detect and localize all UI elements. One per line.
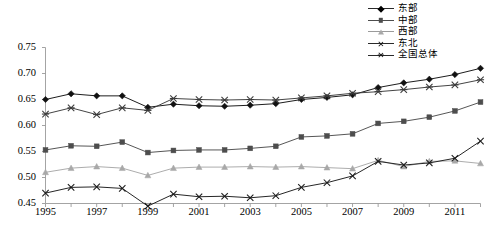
- data-point-square: [273, 144, 278, 149]
- data-point-diamond: [477, 65, 483, 71]
- data-point-star: [477, 77, 484, 83]
- legend-marker-diamond-icon: [379, 7, 384, 12]
- legend-item-label: 全国总体: [398, 50, 438, 60]
- legend-line-swatch: [368, 8, 394, 9]
- legend-marker-triangle-icon: [378, 29, 384, 34]
- x-axis-tick-label: 2011: [435, 207, 475, 218]
- y-axis-tick-label: 0.75: [6, 42, 36, 53]
- data-point-square: [94, 144, 99, 149]
- data-point-diamond: [222, 103, 228, 109]
- data-point-diamond: [170, 101, 176, 107]
- series-line: [46, 80, 481, 115]
- data-point-square: [478, 100, 483, 105]
- y-axis-tick-label: 0.55: [6, 146, 36, 157]
- data-point-diamond: [452, 71, 458, 77]
- legend-item-x[interactable]: 东北: [368, 38, 488, 50]
- data-point-x: [477, 138, 483, 144]
- y-axis-tick-label: 0.50: [6, 172, 36, 183]
- data-point-square: [197, 148, 202, 153]
- x-axis-tick-label: 2001: [179, 207, 219, 218]
- data-point-diamond: [119, 93, 125, 99]
- x-axis-tick-label: 1999: [128, 207, 168, 218]
- chart-figure: 0.450.500.550.600.650.700.75 19951997199…: [0, 0, 491, 237]
- data-point-square: [325, 134, 330, 139]
- data-point-diamond: [196, 103, 202, 109]
- series-square: [43, 100, 483, 155]
- data-point-diamond: [94, 93, 100, 99]
- legend-item-label: 东北: [398, 39, 418, 49]
- legend-line-swatch: [368, 55, 394, 56]
- series-line: [46, 160, 481, 175]
- legend-item-label: 东部: [398, 4, 418, 14]
- legend-marker-square-icon: [379, 18, 383, 22]
- y-axis-tick-label: 0.60: [6, 120, 36, 131]
- legend-item-diamond[interactable]: 东部: [368, 3, 488, 15]
- chart-legend: 东部中部西部东北全国总体: [368, 3, 488, 61]
- data-point-star: [221, 97, 228, 103]
- legend-item-label: 中部: [398, 16, 418, 26]
- data-point-x: [349, 173, 355, 179]
- y-axis-tick-label: 0.65: [6, 94, 36, 105]
- data-point-star: [400, 86, 407, 92]
- x-axis-tick-label: 1995: [26, 207, 66, 218]
- data-point-diamond: [42, 96, 48, 102]
- legend-item-label: 西部: [398, 27, 418, 37]
- data-point-square: [171, 148, 176, 153]
- data-point-star: [195, 96, 202, 102]
- data-point-square: [376, 121, 381, 126]
- legend-item-triangle[interactable]: 西部: [368, 26, 488, 38]
- series-line: [46, 141, 481, 206]
- data-point-square: [222, 148, 227, 153]
- data-point-star: [119, 105, 126, 111]
- data-point-square: [145, 150, 150, 155]
- data-point-star: [451, 82, 458, 88]
- data-point-star: [67, 105, 74, 111]
- data-point-diamond: [401, 80, 407, 86]
- data-point-square: [401, 119, 406, 124]
- legend-line-swatch: [368, 20, 394, 21]
- legend-line-swatch: [368, 31, 394, 32]
- x-axis-tick-label: 1997: [77, 207, 117, 218]
- series-triangle: [43, 157, 484, 178]
- series-line: [46, 102, 481, 152]
- series-star: [42, 77, 484, 118]
- x-axis-tick-label: 2003: [230, 207, 270, 218]
- series-x: [42, 138, 483, 209]
- data-point-square: [350, 131, 355, 136]
- data-point-diamond: [247, 102, 253, 108]
- data-point-square: [69, 143, 74, 148]
- legend-line-swatch: [368, 43, 394, 44]
- legend-item-star[interactable]: 全国总体: [368, 49, 488, 61]
- data-point-square: [427, 115, 432, 120]
- data-point-star: [93, 111, 100, 117]
- y-axis-tick-label: 0.70: [6, 68, 36, 79]
- data-point-square: [453, 109, 458, 114]
- data-point-square: [248, 146, 253, 151]
- data-point-diamond: [426, 76, 432, 82]
- series-line: [46, 68, 481, 107]
- legend-item-square[interactable]: 中部: [368, 15, 488, 27]
- legend-marker-x-icon: [378, 41, 384, 47]
- legend-marker-star-icon: [378, 52, 384, 58]
- data-point-square: [43, 148, 48, 153]
- x-axis-tick-label: 2007: [333, 207, 373, 218]
- data-point-square: [120, 140, 125, 145]
- data-point-triangle: [94, 163, 100, 169]
- x-axis-tick-label: 2005: [281, 207, 321, 218]
- x-axis-tick-label: 2009: [384, 207, 424, 218]
- data-point-star: [426, 84, 433, 90]
- data-point-square: [299, 135, 304, 140]
- data-point-diamond: [68, 91, 74, 97]
